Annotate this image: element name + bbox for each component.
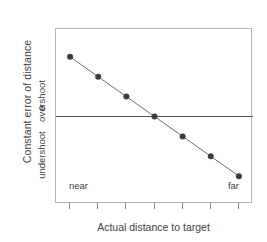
x-axis-title: Actual distance to target [55,220,252,234]
data-point-marker [180,133,186,139]
data-point-marker [208,153,214,159]
x-axis-tick [182,203,183,209]
data-point-marker [123,94,129,100]
chart-figure: Constant error of distance overshoot 0 u… [0,0,267,242]
x-axis-tick [210,203,211,209]
plot-canvas [56,29,253,204]
x-axis-tick [69,203,70,209]
x-range-label-near: near [69,180,88,192]
y-axis-title: Constant error of distance [16,0,38,203]
plot-area: near far [55,28,252,203]
x-axis-tick [154,203,155,209]
x-axis-ticks [55,203,252,210]
data-point-marker [152,114,158,120]
x-range-label-far: far [228,180,239,192]
x-axis-tick [125,203,126,209]
data-point-marker [67,54,73,60]
data-point-marker [236,173,242,179]
x-axis-tick [97,203,98,209]
data-point-marker [95,74,101,80]
x-axis-tick [238,203,239,209]
y-tick-label-undershoot: undershoot [36,114,48,196]
